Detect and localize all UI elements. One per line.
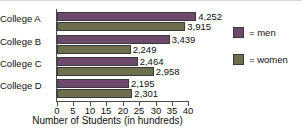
bar-women-college-a: [57, 22, 185, 31]
legend-item-women: = women: [233, 52, 301, 66]
chart-legend: = men = women: [233, 25, 301, 79]
bar-value-women-college-d: 2,301: [134, 89, 158, 99]
bar-value-women-college-a: 3,915: [187, 22, 211, 32]
x-axis-title: Number of Students (in hundreds): [0, 115, 215, 127]
category-label-3: College D: [0, 81, 54, 91]
bar-men-college-a: [57, 12, 196, 21]
legend-item-men: = men: [233, 25, 301, 39]
bar-women-college-c: [57, 67, 154, 76]
bar-chart: College A College B College C College D …: [0, 0, 302, 132]
bar-men-college-b: [57, 35, 170, 44]
legend-label-women: = women: [249, 54, 288, 65]
category-label-1: College B: [0, 37, 54, 47]
legend-swatch-men-icon: [233, 27, 244, 38]
category-label-0: College A: [0, 14, 54, 24]
bar-value-women-college-c: 2,958: [156, 67, 180, 77]
category-label-2: College C: [0, 59, 54, 69]
legend-swatch-women-icon: [233, 54, 244, 65]
bar-men-college-d: [57, 79, 129, 88]
bar-women-college-d: [57, 89, 132, 98]
bar-value-men-college-b: 3,439: [172, 35, 196, 45]
legend-label-men: = men: [249, 27, 276, 38]
category-axis-labels: College A College B College C College D: [0, 1, 56, 101]
bar-men-college-c: [57, 57, 138, 66]
bar-value-women-college-b: 2,249: [133, 45, 157, 55]
plot-area: 4,252 3,915 3,439 2,249 2,464 2,958 2,19…: [57, 10, 188, 99]
bar-women-college-b: [57, 45, 131, 54]
